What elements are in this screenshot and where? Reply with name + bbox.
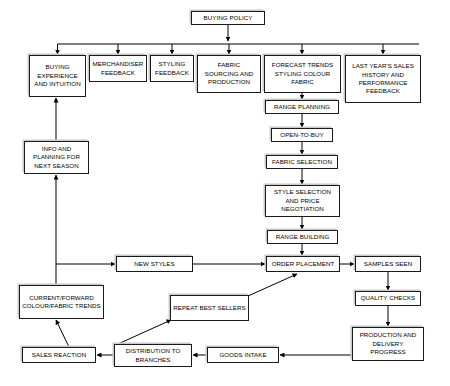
- node-label-last_years_sales: LAST YEAR'S SALES HISTORY AND PERFORMANC…: [346, 62, 420, 96]
- node-label-range_building: RANGE BUILDING: [274, 233, 332, 241]
- node-label-buying_policy: BUYING POLICY: [202, 14, 255, 22]
- node-label-goods_intake: GOODS INTAKE: [217, 351, 268, 359]
- edge-distribution-to-repeat: [118, 320, 171, 344]
- node-sales_reaction[interactable]: SALES REACTION: [22, 347, 96, 363]
- node-label-range_planning: RANGE PLANNING: [272, 103, 332, 111]
- node-label-forecast_trends: FORECAST TRENDS STYLING COLOUR FABRIC: [265, 61, 340, 86]
- node-style_selection[interactable]: STYLE SELECTION AND PRICE NEGOTIATION: [265, 185, 340, 217]
- node-styling_feedback[interactable]: STYLING FEEDBACK: [150, 55, 194, 82]
- node-label-samples_seen: SAMPLES SEEN: [362, 260, 414, 268]
- node-label-open_to_buy: OPEN-TO-BUY: [278, 131, 325, 139]
- node-merchandiser_feedback[interactable]: MERCHANDISER FEEDBACK: [89, 55, 147, 82]
- node-label-fabric_sourcing: FABRIC SOURCING AND PRODUCTION: [198, 61, 260, 86]
- node-label-production_delivery: PRODUCTION AND DELIVERY PROGRESS: [353, 331, 423, 356]
- node-label-info_planning: INFO AND PLANNING FOR NEXT SEASON: [25, 145, 88, 170]
- node-range_planning[interactable]: RANGE PLANNING: [265, 100, 339, 114]
- node-buying_policy[interactable]: BUYING POLICY: [191, 11, 265, 25]
- node-label-fabric_selection: FABRIC SELECTION: [270, 158, 334, 166]
- node-info_planning[interactable]: INFO AND PLANNING FOR NEXT SEASON: [24, 141, 89, 174]
- node-label-styling_feedback: STYLING FEEDBACK: [151, 60, 193, 77]
- node-distribution_branches[interactable]: DISTRIBUTION TO BRANCHES: [114, 344, 192, 367]
- node-label-distribution_branches: DISTRIBUTION TO BRANCHES: [115, 347, 191, 364]
- node-forecast_trends[interactable]: FORECAST TRENDS STYLING COLOUR FABRIC: [264, 55, 341, 93]
- node-last_years_sales[interactable]: LAST YEAR'S SALES HISTORY AND PERFORMANC…: [345, 55, 421, 103]
- node-production_delivery[interactable]: PRODUCTION AND DELIVERY PROGRESS: [352, 327, 424, 361]
- node-label-style_selection: STYLE SELECTION AND PRICE NEGOTIATION: [266, 188, 339, 213]
- node-fabric_selection[interactable]: FABRIC SELECTION: [266, 155, 338, 169]
- node-goods_intake[interactable]: GOODS INTAKE: [207, 347, 279, 363]
- node-new_styles[interactable]: NEW STYLES: [116, 256, 193, 272]
- node-samples_seen[interactable]: SAMPLES SEEN: [355, 256, 421, 272]
- node-fabric_sourcing[interactable]: FABRIC SOURCING AND PRODUCTION: [197, 55, 261, 93]
- node-quality_checks[interactable]: QUALITY CHECKS: [355, 291, 421, 306]
- node-range_building[interactable]: RANGE BUILDING: [267, 230, 338, 244]
- node-current_forward[interactable]: CURRENT/FORWARD COLOUR/FABRIC TRENDS: [19, 285, 104, 319]
- node-label-repeat_best_sellers: REPEAT BEST SELLERS: [171, 304, 247, 312]
- edge-repeat-to-order: [248, 274, 297, 296]
- node-repeat_best_sellers[interactable]: REPEAT BEST SELLERS: [170, 295, 249, 321]
- flowchart-canvas: BUYING POLICYBUYING EXPERIENCE AND INTUI…: [0, 0, 450, 386]
- node-open_to_buy[interactable]: OPEN-TO-BUY: [271, 128, 333, 142]
- node-label-buying_experience: BUYING EXPERIENCE AND INTUITION: [30, 63, 85, 88]
- node-label-order_placement: ORDER PLACEMENT: [270, 260, 337, 268]
- node-label-quality_checks: QUALITY CHECKS: [359, 294, 418, 302]
- node-label-current_forward: CURRENT/FORWARD COLOUR/FABRIC TRENDS: [20, 294, 103, 311]
- node-label-sales_reaction: SALES REACTION: [30, 351, 88, 359]
- node-label-merchandiser_feedback: MERCHANDISER FEEDBACK: [90, 60, 146, 77]
- node-buying_experience[interactable]: BUYING EXPERIENCE AND INTUITION: [29, 55, 86, 97]
- node-label-new_styles: NEW STYLES: [132, 260, 176, 268]
- edge-sales-to-current: [56, 320, 69, 347]
- node-order_placement[interactable]: ORDER PLACEMENT: [266, 256, 340, 272]
